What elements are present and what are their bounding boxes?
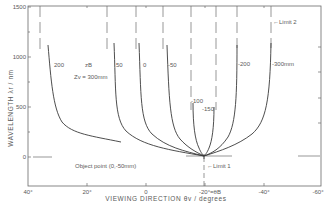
y-axis-ticks [28, 6, 321, 186]
zero-baseline-dashes [33, 156, 320, 157]
curve-200 [48, 45, 121, 142]
y-axis-title: WAVELENGTH λr / nm [7, 69, 14, 146]
y-tick-500: 500 [16, 104, 27, 110]
label-200: 200 [54, 62, 65, 68]
y-tick-1500: 1500 [13, 4, 27, 10]
limit1-annotation: ←Limit 1 [207, 163, 231, 169]
wavelength-vs-viewing-direction-chart: 1500 1000 500 0 WAVELENGTH λr / nm 40° 2… [0, 0, 330, 203]
label-minus100: -100 [191, 98, 204, 104]
label-zv: Zv = 300mm [74, 74, 108, 80]
label-50: 50 [116, 62, 123, 68]
x-tick-minus60: -60° [312, 189, 324, 195]
y-tick-0: 0 [23, 154, 27, 160]
label-0: 0 [143, 62, 147, 68]
limit2-annotation: ←Limit 2 [273, 19, 297, 25]
label-minus150: -150 [202, 106, 215, 112]
y-tick-1000: 1000 [13, 54, 27, 60]
plot-frame [28, 6, 321, 186]
label-zb: zB [85, 62, 92, 68]
curve-minus200 [204, 45, 237, 156]
object-point-annotation: Object point (0,-50mm) [75, 163, 136, 169]
label-minus200: -200 [238, 61, 251, 67]
curve-minus150 [204, 107, 214, 156]
curves [48, 43, 271, 156]
label-minus50: -50 [168, 62, 177, 68]
label-minus300: -300mm [272, 61, 294, 67]
x-axis-title: VIEWING DIRECTION θv / degrees [105, 195, 226, 203]
curve-minus300 [204, 43, 271, 156]
x-tick-minus40: -40° [258, 189, 270, 195]
x-tick-20: 20° [82, 189, 92, 195]
x-tick-40: 40° [23, 189, 33, 195]
